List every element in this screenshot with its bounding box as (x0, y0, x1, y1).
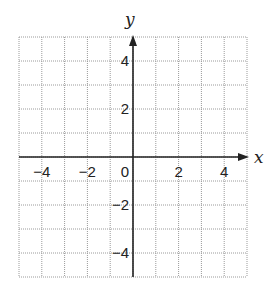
coordinate-plane: −4−202442−2−4 x y (0, 0, 273, 289)
x-axis-label: x (254, 147, 264, 167)
y-axis-label: y (124, 9, 135, 29)
axes (19, 35, 249, 277)
y-tick-label: −4 (112, 244, 129, 261)
y-tick-label: 4 (121, 52, 129, 69)
x-tick-label: 2 (174, 163, 182, 180)
x-tick-label: 0 (121, 163, 129, 180)
y-tick-label: 2 (121, 100, 129, 117)
x-tick-label: −2 (79, 163, 96, 180)
x-tick-label: 4 (220, 163, 228, 180)
x-tick-label: −4 (33, 163, 50, 180)
y-tick-label: −2 (112, 196, 129, 213)
